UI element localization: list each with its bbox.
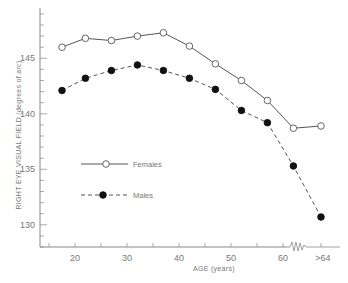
data-point-marker xyxy=(108,67,115,74)
data-point-marker xyxy=(212,61,219,68)
data-point-marker xyxy=(82,75,89,82)
x-tick-label: 60 xyxy=(278,253,288,263)
data-point-marker xyxy=(186,43,193,50)
legend: FemalesMales xyxy=(81,160,162,200)
series-males xyxy=(59,62,325,221)
x-axis-label: AGE (years) xyxy=(193,265,235,273)
filled-circle-icon xyxy=(100,192,107,199)
data-point-marker xyxy=(160,67,167,74)
legend-item-males: Males xyxy=(81,191,153,200)
y-tick-label: 145 xyxy=(20,53,35,63)
data-point-marker xyxy=(82,35,89,42)
legend-label: Females xyxy=(133,160,162,169)
x-tick-label: 30 xyxy=(122,253,132,263)
y-tick-label: 130 xyxy=(20,220,35,230)
data-point-marker xyxy=(318,123,325,130)
data-point-marker xyxy=(318,214,325,221)
line-chart: 130135140145 2030405060>64 FemalesMales … xyxy=(0,0,348,283)
x-tick-label: 20 xyxy=(70,253,80,263)
data-point-marker xyxy=(134,62,141,69)
data-point-marker xyxy=(186,75,193,82)
y-tick-label: 140 xyxy=(20,109,35,119)
data-point-marker xyxy=(264,97,271,104)
x-axis-ticks: 2030405060>64 xyxy=(49,243,331,263)
data-point-marker xyxy=(238,77,245,84)
data-point-marker xyxy=(59,87,66,94)
open-circle-icon xyxy=(103,161,110,168)
legend-label: Males xyxy=(133,191,153,200)
x-tick-label: 40 xyxy=(174,253,184,263)
data-point-marker xyxy=(59,44,66,51)
data-point-marker xyxy=(160,29,167,36)
x-tick-label: 50 xyxy=(226,253,236,263)
data-point-marker xyxy=(212,86,219,93)
data-series xyxy=(59,29,325,220)
data-point-marker xyxy=(134,33,141,40)
axis-break-icon xyxy=(287,242,340,251)
y-axis-label: RIGHT EYE VISUAL FIELD (degrees of arc) xyxy=(15,60,23,209)
data-point-marker xyxy=(108,37,115,44)
data-point-marker xyxy=(264,119,271,126)
y-axis-ticks: 130135140145 xyxy=(20,14,47,247)
y-tick-label: 135 xyxy=(20,164,35,174)
data-point-marker xyxy=(290,125,297,132)
data-point-marker xyxy=(238,107,245,114)
x-tick-label: >64 xyxy=(315,253,330,263)
data-point-marker xyxy=(290,163,297,170)
legend-item-females: Females xyxy=(81,160,162,169)
